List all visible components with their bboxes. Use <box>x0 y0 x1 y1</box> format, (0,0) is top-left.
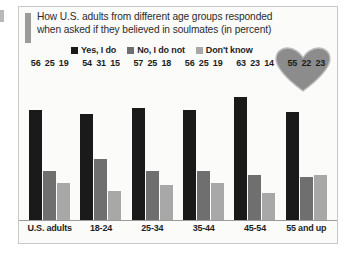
bar[interactable]: 25 <box>146 171 159 220</box>
bar[interactable]: 23 <box>314 175 327 220</box>
bar-value-label: 57 <box>134 59 144 68</box>
bar-column[interactable]: 25 <box>43 69 56 220</box>
bar[interactable]: 57 <box>132 108 145 220</box>
bar-column[interactable]: 18 <box>160 69 173 220</box>
chart-legend: Yes, I doNo, I do notDon't know <box>71 45 253 55</box>
bar-value-label: 19 <box>59 59 69 68</box>
bar-value-label: 14 <box>264 59 274 68</box>
bar[interactable]: 23 <box>248 175 261 220</box>
bar[interactable]: 15 <box>108 191 121 220</box>
bar-column[interactable]: 54 <box>80 69 93 220</box>
page-title: How U.S. adults from different age group… <box>37 11 305 36</box>
category-label: 55 and up <box>281 223 332 233</box>
title-line-2: when asked if they believed in soulmates… <box>37 24 305 37</box>
bar-value-label: 25 <box>199 59 209 68</box>
bar-value-label: 25 <box>45 59 55 68</box>
bar-value-label: 18 <box>162 59 172 68</box>
chart-plot-area: 562519543115572518562519632314552223 <box>20 69 336 220</box>
bar-column[interactable]: 23 <box>314 69 327 220</box>
accent-bar <box>25 13 31 43</box>
x-axis-line <box>19 220 337 221</box>
bar[interactable]: 63 <box>234 97 247 220</box>
bar-value-label: 25 <box>148 59 158 68</box>
bar[interactable]: 18 <box>160 185 173 220</box>
bar-column[interactable]: 23 <box>248 69 261 220</box>
legend-swatch-icon <box>127 47 134 54</box>
bar-value-label: 63 <box>236 59 246 68</box>
bar-column[interactable]: 22 <box>300 69 313 220</box>
bar-column[interactable]: 25 <box>146 69 159 220</box>
bar-group: 562519 <box>178 69 229 220</box>
bar-value-label: 54 <box>82 59 92 68</box>
category-axis-labels: U.S. adults18-2425-3435-4445-5455 and up <box>20 223 336 233</box>
bar[interactable]: 56 <box>29 110 42 220</box>
bar[interactable]: 25 <box>43 171 56 220</box>
bar-column[interactable]: 56 <box>29 69 42 220</box>
bar-value-label: 15 <box>110 59 120 68</box>
bar-group: 543115 <box>75 69 126 220</box>
left-edge-tick <box>0 10 4 22</box>
bar-value-label: 31 <box>96 59 106 68</box>
bar-groups: 562519543115572518562519632314552223 <box>20 69 336 220</box>
bar[interactable]: 31 <box>94 159 107 220</box>
category-label: 18-24 <box>75 223 126 233</box>
legend-item[interactable]: Don't know <box>196 45 253 55</box>
bar-value-label: 56 <box>31 59 41 68</box>
bar-column[interactable]: 56 <box>183 69 196 220</box>
bar[interactable]: 19 <box>211 183 224 220</box>
bar-column[interactable]: 31 <box>94 69 107 220</box>
title-line-1: How U.S. adults from different age group… <box>37 11 305 24</box>
legend-label: Don't know <box>206 45 253 55</box>
legend-item[interactable]: No, I do not <box>127 45 185 55</box>
bar-column[interactable]: 14 <box>262 69 275 220</box>
legend-label: No, I do not <box>137 45 185 55</box>
legend-swatch-icon <box>196 47 203 54</box>
bar[interactable]: 19 <box>57 183 70 220</box>
category-label: U.S. adults <box>24 223 75 233</box>
category-label: 35-44 <box>178 223 229 233</box>
bar-group: 562519 <box>24 69 75 220</box>
bar-column[interactable]: 63 <box>234 69 247 220</box>
bar[interactable]: 14 <box>262 193 275 220</box>
bar-value-label: 22 <box>301 59 311 68</box>
bar-column[interactable]: 57 <box>132 69 145 220</box>
bar[interactable]: 22 <box>300 177 313 220</box>
bar[interactable]: 56 <box>183 110 196 220</box>
bar-group: 572518 <box>127 69 178 220</box>
legend-swatch-icon <box>71 47 78 54</box>
bar[interactable]: 54 <box>80 114 93 220</box>
legend-label: Yes, I do <box>81 45 116 55</box>
bar[interactable]: 55 <box>286 112 299 220</box>
chart-frame: How U.S. adults from different age group… <box>18 6 338 244</box>
legend-item[interactable]: Yes, I do <box>71 45 116 55</box>
category-label: 25-34 <box>127 223 178 233</box>
infographic-root: How U.S. adults from different age group… <box>0 0 345 259</box>
bar-group: 552223 <box>281 69 332 220</box>
bar-column[interactable]: 55 <box>286 69 299 220</box>
bar-value-label: 55 <box>287 59 297 68</box>
bar-column[interactable]: 25 <box>197 69 210 220</box>
bar-column[interactable]: 19 <box>57 69 70 220</box>
bar-value-label: 23 <box>315 59 325 68</box>
bar-value-label: 56 <box>185 59 195 68</box>
bar-value-label: 23 <box>250 59 260 68</box>
bar-value-label: 19 <box>213 59 223 68</box>
category-label: 45-54 <box>229 223 280 233</box>
bar-group: 632314 <box>229 69 280 220</box>
bar-column[interactable]: 19 <box>211 69 224 220</box>
bar[interactable]: 25 <box>197 171 210 220</box>
bar-column[interactable]: 15 <box>108 69 121 220</box>
